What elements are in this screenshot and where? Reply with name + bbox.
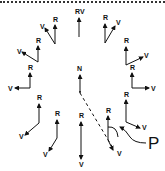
label-v: V [40, 23, 45, 30]
label-v: V [43, 151, 48, 158]
vector-diagram: RV R V R V R V R V R V R V [0, 0, 165, 171]
vector-pair-right-upper: R V [124, 37, 149, 65]
vector-pair-left-upper: R V [17, 37, 41, 62]
label-v: V [151, 85, 156, 92]
vector-pair-right: R V [130, 64, 156, 92]
label-r: R [124, 37, 129, 44]
label-n: N [77, 65, 82, 72]
vector-pair-bottom-right-p: R V [106, 107, 122, 157]
pointer-p: P [120, 127, 159, 153]
label-v: V [142, 124, 147, 131]
label-r: R [37, 94, 42, 101]
label-r: R [55, 110, 60, 117]
label-v: V [116, 19, 121, 26]
label-r: R [36, 37, 41, 44]
vector-pair-top-left: R V [40, 16, 58, 44]
vector-pair-left: R V [8, 64, 33, 92]
vector-pair-bottom: R V [79, 112, 84, 168]
curved-arc [108, 127, 118, 137]
label-rv: RV [75, 8, 85, 15]
label-r: R [106, 107, 111, 114]
vector-pair-right-lower: R V [124, 91, 147, 131]
label-v: V [79, 161, 84, 168]
vector-pair-top: RV [75, 8, 85, 37]
label-v: V [17, 48, 22, 55]
label-v: V [19, 133, 24, 140]
label-v: V [117, 150, 122, 157]
vector-pair-left-lower: R V [19, 94, 42, 140]
vector-pair-top-right: R V [103, 14, 121, 43]
label-r: R [79, 112, 84, 119]
label-r: R [53, 16, 58, 23]
label-r: R [103, 14, 108, 21]
label-v: V [144, 52, 149, 59]
label-p: P [148, 134, 159, 153]
vector-pair-bottom-left: R V [43, 110, 60, 158]
label-r: R [124, 91, 129, 98]
center-point-n: N [77, 65, 82, 93]
label-r: R [130, 64, 135, 71]
label-v: V [8, 85, 13, 92]
label-r: R [28, 64, 33, 71]
